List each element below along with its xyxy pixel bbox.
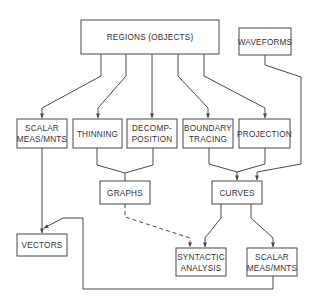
node-waveforms-label: WAVEFORMS [238,38,293,47]
node-scalar-measurements-top: SCALAR MEAS/MNTS [17,119,68,148]
node-boundary-label-line1: BOUNDARY [184,124,232,133]
node-boundary-label-line2: TRACING [189,135,227,144]
node-scalar-top-label-line1: SCALAR [25,124,59,133]
node-scalar-measurements-bottom: SCALAR MEAS/MNTS [247,248,298,276]
node-curves: CURVES [212,181,262,204]
node-graphs: GRAPHS [100,181,150,204]
node-thinning-label: THINNING [77,130,118,139]
edge-thinning-to-graphs [97,148,125,173]
node-scalar-bottom-label-line1: SCALAR [255,253,289,262]
node-graphs-label: GRAPHS [107,189,143,198]
node-vectors: VECTORS [17,234,67,256]
node-vectors-label: VECTORS [22,241,63,250]
node-thinning: THINNING [73,119,122,148]
node-syntactic-label-line1: SYNTACTIC [177,253,225,262]
node-regions-objects: REGIONS (OBJECTS) [81,20,219,54]
node-projection-label: PROJECTION [237,130,292,139]
edge-regions-to-scalar-top [42,54,101,118]
node-scalar-top-label-line2: MEAS/MNTS [17,135,68,144]
edge-regions-to-thinning [98,54,126,118]
node-decomposition-label-line2: POSITION [132,135,173,144]
node-boundary-tracing: BOUNDARY TRACING [183,119,233,148]
node-projection: PROJECTION [237,119,292,148]
flowchart-diagram: REGIONS (OBJECTS) WAVEFORMS SCALAR MEAS/… [0,0,318,305]
node-syntactic-label-line2: ANALYSIS [180,264,221,273]
node-regions-label: REGIONS (OBJECTS) [107,33,194,42]
edge-regions-to-projection [204,54,265,118]
edge-curves-to-syntactic [205,204,221,247]
edge-decomposition-to-graphs [125,148,153,181]
edge-waveforms-to-curves [257,55,301,180]
node-decomposition: DECOMP- POSITION [127,119,177,148]
node-syntactic-analysis: SYNTACTIC ANALYSIS [176,248,226,276]
edge-graphs-to-syntactic-dashed [125,204,190,247]
node-waveforms: WAVEFORMS [238,28,293,55]
edge-curves-to-scalar-bottom [251,204,273,247]
node-scalar-bottom-label-line2: MEAS/MNTS [247,264,298,273]
edge-boundary-to-curves [209,148,237,180]
edge-projection-to-curves [237,148,265,172]
node-curves-label: CURVES [219,189,255,198]
node-decomposition-label-line1: DECOMP- [132,124,172,133]
edge-scalar-bottom-to-vectors [44,218,273,289]
